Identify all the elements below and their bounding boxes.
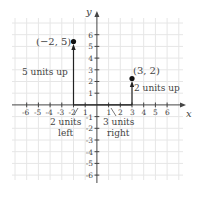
- svg-text:-1: -1: [86, 113, 93, 122]
- svg-text:-5: -5: [34, 108, 42, 117]
- annotation-2-units: 2 units: [50, 117, 82, 127]
- x-axis-label: x: [186, 108, 192, 119]
- svg-text:-2: -2: [69, 108, 77, 117]
- y-axis: [94, 11, 99, 183]
- svg-text:4: 4: [88, 54, 93, 63]
- x-arrow-icon: [180, 102, 186, 107]
- annotation-left: left: [58, 128, 74, 138]
- svg-text:-4: -4: [46, 108, 54, 117]
- y-axis-label: y: [85, 6, 92, 17]
- path-to-3-2: [97, 81, 134, 116]
- annotation-3-units: 3 units: [103, 117, 135, 127]
- svg-text:6: 6: [165, 108, 170, 117]
- svg-text:5: 5: [153, 108, 158, 117]
- svg-text:-6: -6: [86, 171, 94, 180]
- svg-text:-3: -3: [86, 136, 94, 145]
- point-3-2: [129, 76, 134, 81]
- svg-text:3: 3: [88, 66, 93, 75]
- annotation-right: right: [107, 128, 130, 138]
- x-tick-labels: -6 -5 -4 -3 -2 1 1 2 3 4 5 6: [22, 108, 170, 117]
- svg-text:6: 6: [88, 31, 93, 40]
- svg-text:-4: -4: [86, 148, 94, 157]
- path-to-neg2-5: [71, 44, 97, 115]
- svg-text:2: 2: [88, 77, 93, 86]
- svg-text:3: 3: [130, 108, 135, 117]
- svg-text:1: 1: [88, 89, 93, 98]
- svg-text:5: 5: [88, 42, 93, 51]
- svg-text:-6: -6: [22, 108, 30, 117]
- annotation-2-units-up: 2 units up: [134, 83, 180, 93]
- annotation-5-units-up: 5 units up: [22, 67, 68, 77]
- svg-text:-3: -3: [57, 108, 65, 117]
- svg-text:2: 2: [118, 108, 123, 117]
- svg-text:1: 1: [107, 108, 112, 117]
- svg-text:4: 4: [142, 108, 147, 117]
- coordinate-plane: x y -6 -5 -4 -3 -2 1 1 2 3 4 5 6 6 5 4 3…: [0, 0, 198, 200]
- svg-text:-2: -2: [86, 124, 94, 133]
- up-arrow-icon: [71, 44, 75, 50]
- svg-text:-5: -5: [86, 159, 94, 168]
- point-neg2-5: [71, 39, 76, 44]
- y-arrow-icon: [94, 11, 99, 17]
- point-label-3-2: (3, 2): [133, 65, 160, 76]
- point-label-neg2-5: (−2, 5): [36, 36, 71, 47]
